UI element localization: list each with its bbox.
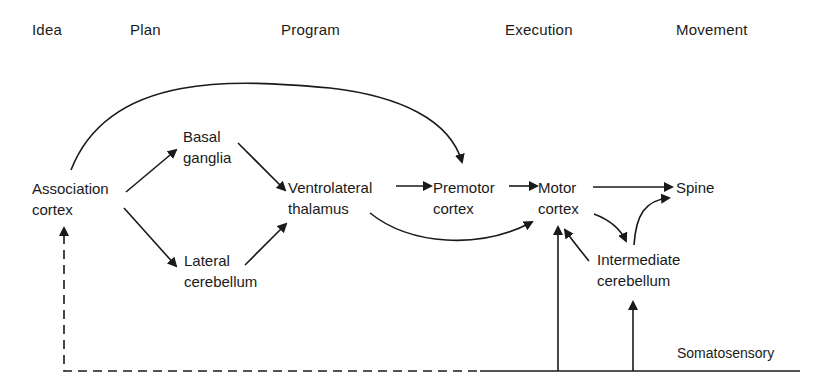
node-label-line2: cerebellum bbox=[597, 270, 680, 291]
node-label-line1: Spine bbox=[676, 177, 714, 198]
node-label-line1: Motor bbox=[538, 177, 579, 198]
node-lateral-cerebellum: Lateral cerebellum bbox=[184, 250, 257, 292]
node-basal-ganglia: Basal ganglia bbox=[183, 126, 231, 168]
arrow-association-to-lateral bbox=[124, 208, 176, 266]
node-intermediate-cerebellum: Intermediate cerebellum bbox=[597, 249, 680, 291]
node-label-line1: Association bbox=[32, 178, 109, 199]
node-label-line2: cerebellum bbox=[184, 271, 257, 292]
node-label-line1: Intermediate bbox=[597, 249, 680, 270]
arrow-intermediate-to-motor bbox=[565, 230, 589, 261]
node-label-line1: Premotor bbox=[433, 177, 495, 198]
arrow-basal-to-thalamus bbox=[238, 143, 285, 190]
node-label-line2: ganglia bbox=[183, 147, 231, 168]
node-label-line2: cortex bbox=[433, 198, 495, 219]
node-label-line1: Ventrolateral bbox=[288, 177, 372, 198]
node-spine: Spine bbox=[676, 177, 714, 198]
node-label-line1: Basal bbox=[183, 126, 231, 147]
node-label-line2: cortex bbox=[538, 198, 579, 219]
arrow-somatosensory-to-association bbox=[64, 228, 477, 371]
node-label-line2: cortex bbox=[32, 199, 109, 220]
node-label-line1: Lateral bbox=[184, 250, 257, 271]
node-ventrolateral-thalamus: Ventrolateral thalamus bbox=[288, 177, 372, 219]
arrow-association-to-basal bbox=[126, 150, 176, 192]
arrow-intermediate-to-spine bbox=[634, 198, 669, 245]
node-label-line2: thalamus bbox=[288, 198, 372, 219]
arrow-association-to-premotor bbox=[71, 83, 462, 170]
node-premotor-cortex: Premotor cortex bbox=[433, 177, 495, 219]
node-motor-cortex: Motor cortex bbox=[538, 177, 579, 219]
node-somatosensory: Somatosensory bbox=[677, 343, 774, 364]
node-association-cortex: Association cortex bbox=[32, 178, 109, 220]
arrow-motor-to-intermediate bbox=[594, 214, 626, 241]
node-label-line1: Somatosensory bbox=[677, 343, 774, 364]
